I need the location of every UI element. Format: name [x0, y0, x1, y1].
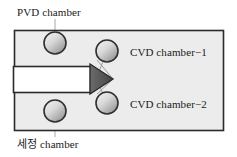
chamber-pvd[interactable] [44, 32, 66, 54]
cluster-tool-diagram [0, 0, 237, 157]
chamber-cvd-2[interactable] [96, 92, 118, 114]
chamber-cvd-1[interactable] [96, 40, 118, 62]
transfer-chamber-bar [14, 67, 91, 93]
label-cvd-chamber-2: CVD chamber−2 [130, 98, 207, 110]
label-cvd-chamber-1: CVD chamber−1 [130, 46, 207, 58]
chamber-cleaning[interactable] [44, 100, 66, 122]
label-cleaning-chamber: 세정 chamber [17, 138, 79, 150]
diagram-root: PVD chamber 세정 chamber CVD chamber−1 CVD… [0, 0, 237, 157]
label-pvd-chamber: PVD chamber [17, 6, 81, 18]
